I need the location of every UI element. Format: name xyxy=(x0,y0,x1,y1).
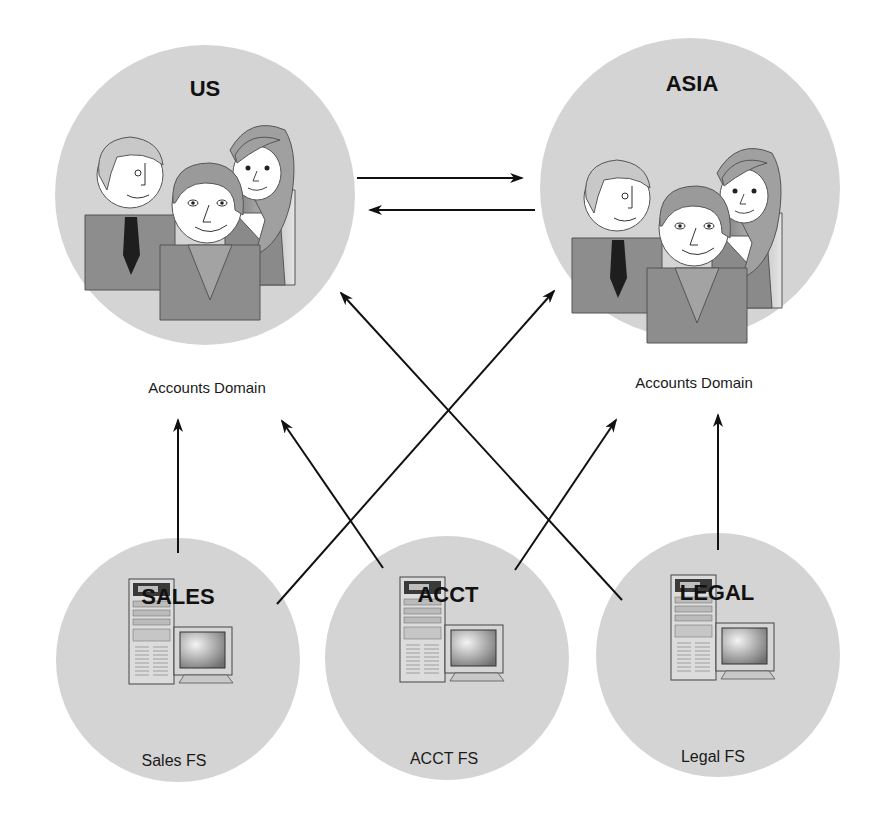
asia-domain-title: ASIA xyxy=(666,71,719,96)
trust-arrow-acct-to-asia xyxy=(515,420,616,570)
trust-arrow-acct-to-us xyxy=(282,421,383,568)
legal-server-label: Legal FS xyxy=(681,748,745,765)
acct-domain-title: ACCT xyxy=(417,582,479,607)
us-domain-caption: Accounts Domain xyxy=(148,379,266,396)
sales-domain-title: SALES xyxy=(141,584,214,609)
asia-domain-caption: Accounts Domain xyxy=(635,374,753,391)
sales-server-label: Sales FS xyxy=(142,752,207,769)
us-domain-title: US xyxy=(190,76,221,101)
legal-domain-title: LEGAL xyxy=(680,580,755,605)
acct-server-label: ACCT FS xyxy=(410,750,478,767)
domain-trust-diagram: US ASIA SALES ACCT LEGAL Sales FS ACCT F… xyxy=(0,0,885,819)
